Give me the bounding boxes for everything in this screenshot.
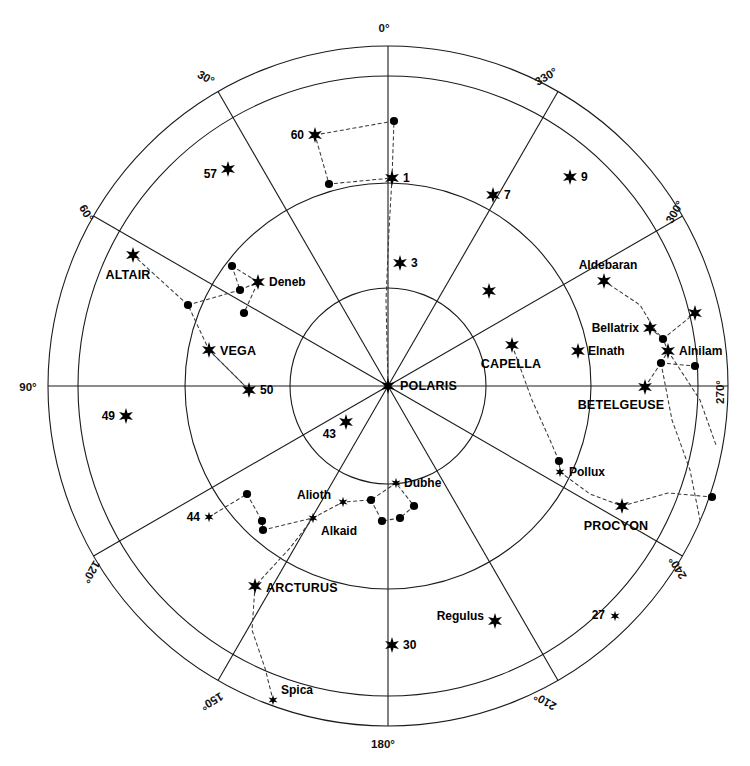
star-marker-star-27 xyxy=(611,611,620,621)
star-marker-star-43 xyxy=(339,414,353,430)
constellation-line-cygnus xyxy=(232,266,258,313)
constellation-line-cygnus-wing xyxy=(188,290,240,305)
azimuth-spoke-210 xyxy=(388,386,558,680)
star-label-star-50: 50 xyxy=(260,383,274,397)
star-labels: POLARIS60157793ALTAIRDenebVEGA50494344Al… xyxy=(102,128,723,697)
tick-120: 120° xyxy=(80,559,102,586)
dot-big-dipper-a xyxy=(243,490,251,498)
azimuth-spoke-330 xyxy=(388,92,558,386)
star-label-star-3: 3 xyxy=(411,256,418,270)
constellation-line-arcturus-spica xyxy=(252,518,313,700)
star-marker-altair xyxy=(126,247,140,263)
tick-60: 60° xyxy=(77,202,96,223)
star-marker-star-unlabeled-upper xyxy=(482,283,496,299)
dot-cygnus-a xyxy=(228,262,236,270)
constellation-line-cygnus-cross xyxy=(232,266,258,290)
star-marker-alioth xyxy=(339,497,348,507)
azimuth-spoke-150 xyxy=(218,386,388,680)
tick-0: 0° xyxy=(379,22,390,34)
dot-big-dipper-g xyxy=(410,502,418,510)
star-label-star-1: 1 xyxy=(403,171,410,185)
dot-big-dipper-e xyxy=(378,517,386,525)
star-label-elnath: Elnath xyxy=(588,344,625,358)
dot-big-dipper-c xyxy=(259,526,267,534)
dot-cygnus-b xyxy=(236,286,244,294)
tick-90: 90° xyxy=(19,381,37,393)
tick-270: 270° xyxy=(714,380,726,404)
star-label-pollux: Pollux xyxy=(569,465,605,479)
star-chart-canvas: POLARIS60157793ALTAIRDenebVEGA50494344Al… xyxy=(0,0,750,766)
star-label-aldebaran: Aldebaran xyxy=(579,258,638,272)
star-label-alnilam: Alnilam xyxy=(679,344,722,358)
star-label-star-9: 9 xyxy=(581,170,588,184)
star-label-bellatrix: Bellatrix xyxy=(592,321,640,335)
star-marker-bellatrix xyxy=(643,320,657,336)
dot-orion-belt-mid xyxy=(657,359,665,367)
tick-330: 330° xyxy=(533,65,560,87)
star-label-star-43: 43 xyxy=(323,427,337,441)
star-marker-deneb xyxy=(251,274,265,290)
dot-cygnus-c xyxy=(240,309,248,317)
star-marker-star-3 xyxy=(393,255,407,271)
dot-ursa-minor-left xyxy=(325,180,333,188)
star-label-altair: ALTAIR xyxy=(105,268,150,282)
star-marker-star-30 xyxy=(385,637,399,653)
tick-150: 150° xyxy=(198,690,225,712)
star-label-alkaid: Alkaid xyxy=(321,524,357,538)
constellation-line-belt-east xyxy=(661,363,695,366)
star-label-spica: Spica xyxy=(281,683,313,697)
dot-big-dipper-f xyxy=(396,514,404,522)
tick-180: 180° xyxy=(371,738,395,750)
star-label-polaris: POLARIS xyxy=(400,379,457,393)
star-label-capella: CAPELLA xyxy=(481,357,541,371)
star-label-alioth: Alioth xyxy=(297,488,331,502)
star-marker-pollux xyxy=(556,467,565,477)
dot-orion-right xyxy=(691,362,699,370)
star-label-star-27: 27 xyxy=(592,608,606,622)
star-label-vega: VEGA xyxy=(220,344,256,358)
star-marker-star-44 xyxy=(205,512,214,522)
constellation-line-ursa-minor-box xyxy=(315,121,394,184)
star-label-procyon: PROCYON xyxy=(584,519,649,533)
star-marker-star-57 xyxy=(221,161,235,177)
constellation-line-belt-betelgeuse xyxy=(645,363,661,387)
sky-map: POLARIS60157793ALTAIRDenebVEGA50494344Al… xyxy=(0,0,750,766)
star-marker-procyon xyxy=(615,498,629,514)
constellation-line-belt-rigel xyxy=(663,313,695,339)
star-label-star-60: 60 xyxy=(291,128,305,142)
constellation-line-big-dipper-left xyxy=(209,494,263,530)
star-marker-star-49 xyxy=(119,408,133,424)
star-label-star-57: 57 xyxy=(204,167,218,181)
dot-big-dipper-b xyxy=(258,517,266,525)
star-marker-aldebaran xyxy=(597,273,611,289)
star-marker-vega xyxy=(202,342,216,358)
star-label-star-49: 49 xyxy=(102,409,116,423)
tick-210: 210° xyxy=(531,690,558,712)
star-marker-star-50 xyxy=(242,382,256,398)
star-marker-betelgeuse xyxy=(638,379,652,395)
tick-300: 300° xyxy=(663,198,685,225)
star-label-star-30: 30 xyxy=(403,638,417,652)
star-marker-star-9 xyxy=(563,169,577,185)
dot-lyra-w xyxy=(184,301,192,309)
star-label-betelgeuse: BETELGEUSE xyxy=(578,398,665,412)
constellation-line-polaris-to-ursa-minor xyxy=(386,178,392,386)
star-marker-star-60 xyxy=(308,127,322,143)
dot-ursa-minor-top xyxy=(390,117,398,125)
tick-30: 30° xyxy=(195,68,216,87)
star-marker-regulus xyxy=(488,613,502,629)
star-label-regulus: Regulus xyxy=(437,609,485,623)
star-marker-alnilam xyxy=(661,343,675,359)
star-label-deneb: Deneb xyxy=(269,275,306,289)
star-marker-spica xyxy=(269,695,278,705)
star-label-star-44: 44 xyxy=(187,510,201,524)
dot-canis-minor-e xyxy=(708,493,716,501)
star-label-dubhe: Dubhe xyxy=(404,476,442,490)
star-label-arcturus: ARCTURUS xyxy=(266,581,338,595)
star-marker-capella xyxy=(505,337,519,353)
dot-gemini-castor xyxy=(555,457,563,465)
dot-orion-belt-top xyxy=(659,335,667,343)
star-markers xyxy=(119,127,702,705)
star-marker-arcturus xyxy=(248,578,262,594)
dot-big-dipper-d xyxy=(367,496,375,504)
